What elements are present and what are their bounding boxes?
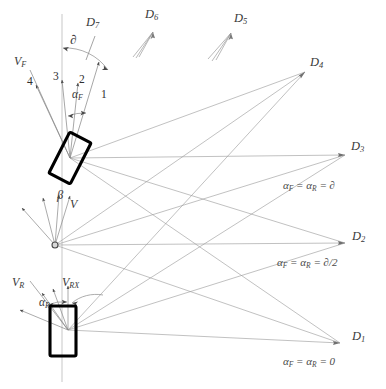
front-ray-to-D4 (70, 72, 305, 158)
label-alpha-F: αF (72, 89, 83, 102)
D6-ray-bundle (133, 32, 153, 58)
centre-ray-to-D3 (55, 155, 345, 245)
D5-ray-a (208, 33, 231, 59)
label-alpha-R: αR (39, 297, 50, 310)
label-D5: D5 (234, 12, 247, 26)
ray-label-3: 3 (53, 71, 59, 83)
ray-label-2: 2 (79, 74, 85, 86)
delta-angle-arc (63, 48, 108, 70)
D5-ray-c (216, 33, 231, 60)
D5-ray-b (212, 33, 231, 61)
label-D1: D1 (352, 330, 365, 344)
label-D2: D2 (352, 230, 365, 244)
D6-ray-a (133, 32, 153, 57)
label-D6: D6 (145, 8, 158, 22)
VRX-pointer-arc (72, 294, 103, 303)
label-V: V (70, 198, 77, 210)
steering-kinematics-diagram: D7 D6 D5 D4 D3 D2 D1 αF = αR = ∂ αF = αR… (0, 0, 386, 389)
equation-D2: αF = αR = ∂/2 (277, 257, 338, 270)
label-VR: VR (12, 276, 24, 290)
label-beta: β (57, 189, 63, 202)
centre-hub-ray-bundle (55, 72, 345, 343)
label-VRX: VRX (62, 276, 79, 290)
front-ray-to-D2 (70, 158, 345, 243)
equation-D3: αF = αR = ∂ (283, 180, 335, 193)
D6-ray-b (136, 32, 153, 58)
centre-vertex-arrowheads (299, 72, 345, 345)
rear-vehicle-body (50, 306, 76, 356)
ray-label-4: 4 (27, 76, 33, 88)
label-D4: D4 (310, 56, 323, 70)
D5-ray-bundle (208, 33, 231, 61)
rear-ray-to-D1 (68, 330, 340, 343)
D6-ray-c (139, 32, 153, 57)
label-VF: VF (14, 55, 26, 69)
rear-ray-to-D4 (68, 72, 305, 330)
rear-ray-VR (53, 289, 68, 330)
equation-D1: αF = αR = 0 (283, 356, 335, 369)
centre-pivot-node (52, 242, 58, 248)
label-D7: D7 (86, 16, 99, 30)
delta-arc-tips (63, 47, 108, 70)
centre-velocity-rays (22, 195, 70, 245)
ray-label-1: 1 (101, 89, 107, 101)
front-ray-to-D3 (70, 155, 345, 158)
label-steer-angle-delta: ∂ (70, 33, 76, 46)
centre-ray-to-D2 (55, 243, 345, 245)
label-D3: D3 (351, 140, 364, 154)
